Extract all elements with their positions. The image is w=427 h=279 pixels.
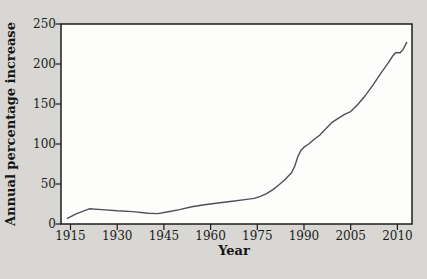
- x-tick-label: 1930: [102, 229, 133, 243]
- x-tick-label: 1960: [195, 229, 226, 243]
- x-tick-label: 1915: [55, 229, 86, 243]
- x-tick-label: 2005: [335, 229, 366, 243]
- x-tick-label: 1945: [149, 229, 180, 243]
- y-tick-label: 50: [41, 177, 56, 191]
- x-axis-tick-labels: 1915 1930 1945 1960 1975 1990 2005 2010: [55, 229, 412, 243]
- y-tick-label: 100: [33, 137, 56, 151]
- x-axis-title: Year: [217, 243, 250, 258]
- x-tick-label: 2010: [382, 229, 413, 243]
- y-tick-label: 250: [33, 17, 56, 31]
- y-tick-label: 150: [33, 97, 56, 111]
- y-axis-tick-marks: [56, 24, 62, 224]
- plot-area: [61, 24, 412, 224]
- x-tick-label: 1975: [242, 229, 273, 243]
- chart-figure: 0 50 100 150 200 250 1915 1930 1945 1960…: [0, 0, 427, 279]
- y-axis-tick-labels: 0 50 100 150 200 250: [33, 17, 56, 231]
- y-tick-label: 200: [33, 57, 56, 71]
- line-chart: 0 50 100 150 200 250 1915 1930 1945 1960…: [0, 0, 427, 279]
- y-axis-title: Annual percentage increase: [3, 22, 18, 227]
- x-tick-label: 1990: [289, 229, 320, 243]
